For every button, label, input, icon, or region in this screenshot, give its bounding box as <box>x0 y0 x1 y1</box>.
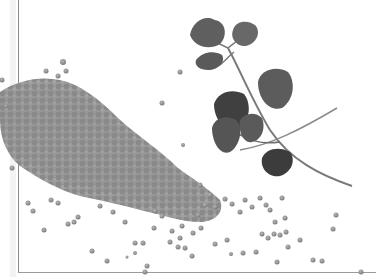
photo-frame <box>0 0 376 277</box>
cilantro-sprig <box>190 18 352 186</box>
photo-illustration <box>0 0 376 277</box>
lentil-pile <box>0 79 221 223</box>
